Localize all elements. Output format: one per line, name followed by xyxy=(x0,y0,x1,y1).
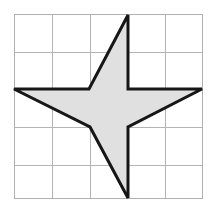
figure-canvas: M xyxy=(0,0,216,209)
star-figure-svg: M xyxy=(0,0,216,209)
four-pointed-star-polygon xyxy=(14,15,202,198)
